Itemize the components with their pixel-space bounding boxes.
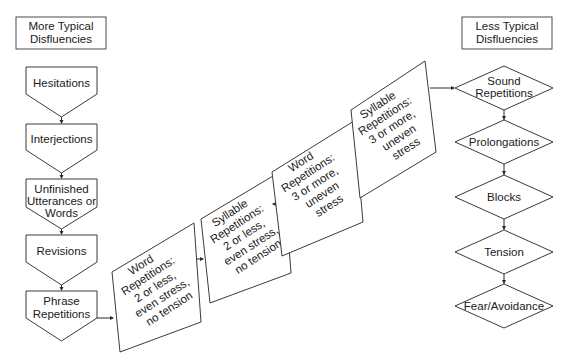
node-unfinished-label-2: Utterances or <box>27 195 96 207</box>
node-sound-label-1: Sound <box>487 75 520 87</box>
node-unfinished-label-3: Words <box>45 207 78 219</box>
node-fear-avoidance: Fear/Avoidance <box>455 284 553 328</box>
step-syllable-repetitions-3-or-more: Syllable Repetitions: 3 or more, uneven … <box>349 61 436 198</box>
header-more-typical-line-2: Disfluencies <box>30 33 92 45</box>
node-tension-label: Tension <box>484 246 524 258</box>
node-revisions: Revisions <box>26 235 97 285</box>
node-phrase-label-1: Phrase <box>43 295 79 307</box>
node-hesitations: Hesitations <box>26 67 97 117</box>
header-more-typical-line-1: More Typical <box>29 20 94 32</box>
step-word-repetitions-2-or-less: Word Repetitions: 2 or less, even stress… <box>111 223 201 352</box>
header-more-typical: More Typical Disfluencies <box>16 17 106 49</box>
disfluency-continuum-diagram: More Typical Disfluencies Less Typical D… <box>0 0 569 359</box>
node-prolongations-label: Prolongations <box>469 136 540 148</box>
step-word-repetitions-3-or-more: Word Repetitions: 3 or more, uneven stre… <box>272 121 363 256</box>
node-blocks: Blocks <box>455 175 553 219</box>
node-sound-label-2: Repetitions <box>475 87 533 99</box>
node-hesitations-label: Hesitations <box>33 77 90 89</box>
header-less-typical: Less Typical Disfluencies <box>462 17 552 49</box>
node-unfinished-utterances: Unfinished Utterances or Words <box>26 179 97 229</box>
node-interjections: Interjections <box>26 124 97 173</box>
node-interjections-label: Interjections <box>30 133 92 145</box>
node-phrase-repetitions: Phrase Repetitions <box>26 291 97 341</box>
node-prolongations: Prolongations <box>455 120 553 164</box>
node-fear-avoidance-label: Fear/Avoidance <box>464 300 544 312</box>
node-sound-repetitions: Sound Repetitions <box>455 66 553 110</box>
node-unfinished-label-1: Unfinished <box>34 183 88 195</box>
node-tension: Tension <box>455 230 553 274</box>
header-less-typical-line-2: Disfluencies <box>476 33 538 45</box>
header-less-typical-line-1: Less Typical <box>475 20 538 32</box>
node-blocks-label: Blocks <box>487 191 521 203</box>
node-revisions-label: Revisions <box>37 245 87 257</box>
node-phrase-label-2: Repetitions <box>33 308 91 320</box>
